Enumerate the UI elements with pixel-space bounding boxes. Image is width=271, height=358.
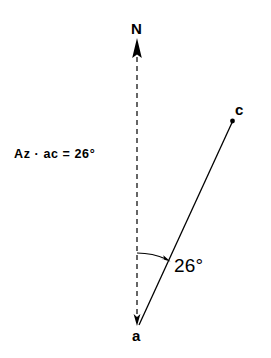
azimuth-ray-a-to-c xyxy=(139,122,233,326)
north-label: N xyxy=(131,21,142,36)
angle-arc-arrowhead-icon xyxy=(160,255,171,261)
azimuth-expression-label: Az · ac = 26° xyxy=(14,148,95,161)
diagram-canvas xyxy=(0,0,271,358)
point-a-label: a xyxy=(132,328,140,343)
point-c-dot xyxy=(230,119,235,124)
angle-value-label: 26° xyxy=(174,256,203,275)
angle-arc xyxy=(137,253,167,259)
azimuth-diagram-figure: N a c 26° Az · ac = 26° xyxy=(0,0,271,358)
point-c-label: c xyxy=(235,102,243,117)
north-arrowhead-icon xyxy=(132,38,142,58)
